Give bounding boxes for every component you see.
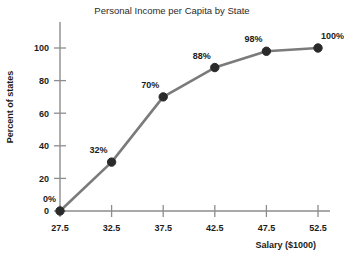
y-tick-label: 100 <box>34 43 49 53</box>
y-tick-label: 80 <box>39 76 49 86</box>
data-point-marker <box>107 158 115 166</box>
data-point-label: 100% <box>321 31 344 41</box>
x-tick-label: 47.5 <box>258 223 276 233</box>
data-point-marker <box>211 63 219 71</box>
x-axis-title: Salary ($1000) <box>255 240 316 250</box>
x-tick-label: 37.5 <box>154 223 172 233</box>
data-point-marker <box>314 44 322 52</box>
data-point-label: 32% <box>90 145 108 155</box>
data-point-marker <box>262 47 270 55</box>
series-point-labels: 0%32%70%88%98%100% <box>43 31 344 204</box>
chart-figure: Personal Income per Capita by State Perc… <box>0 0 344 260</box>
y-axis-title: Percent of states <box>5 71 15 144</box>
x-tick-label: 52.5 <box>309 223 327 233</box>
x-tick-label: 32.5 <box>103 223 121 233</box>
data-point-label: 88% <box>193 51 211 61</box>
data-point-marker <box>159 93 167 101</box>
chart-title: Personal Income per Capita by State <box>94 5 249 16</box>
y-tick-label: 20 <box>39 174 49 184</box>
line-chart: Personal Income per Capita by State Perc… <box>0 0 344 260</box>
data-point-label: 70% <box>141 80 159 90</box>
data-point-label: 0% <box>43 194 56 204</box>
data-point-label: 98% <box>244 34 262 44</box>
y-tick-label: 60 <box>39 109 49 119</box>
y-tick-label: 0 <box>44 206 49 216</box>
series-line <box>60 48 318 211</box>
y-axis-ticks: 020406080100 <box>34 43 66 216</box>
x-tick-label: 27.5 <box>51 223 69 233</box>
x-axis-ticks: 27.532.537.542.547.552.5 <box>51 205 327 233</box>
data-point-marker <box>56 207 64 215</box>
series-markers <box>56 44 322 215</box>
x-tick-label: 42.5 <box>206 223 224 233</box>
y-tick-label: 40 <box>39 141 49 151</box>
